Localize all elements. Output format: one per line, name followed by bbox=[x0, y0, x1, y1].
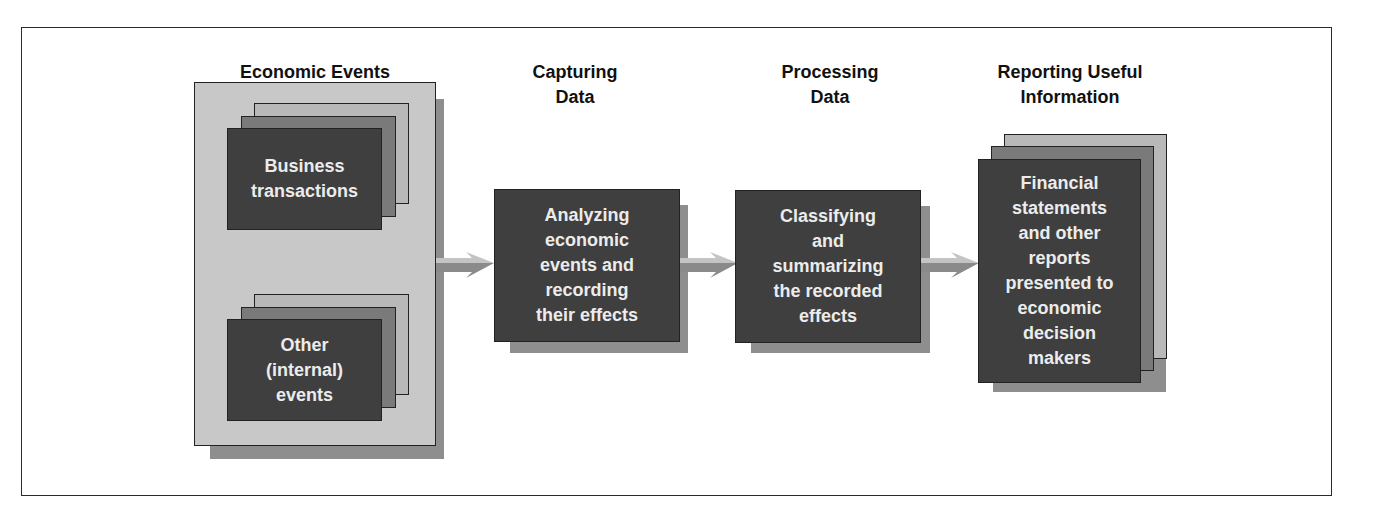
arrow-right-icon bbox=[436, 252, 496, 282]
heading-capturing-data: Capturing Data bbox=[490, 60, 660, 110]
heading-processing-data: Processing Data bbox=[730, 60, 930, 110]
business-transactions-label: Business transactions bbox=[251, 154, 358, 204]
processing-data-label: Classifying and summarizing the recorded… bbox=[772, 204, 883, 329]
heading-reporting-useful-information: Reporting Useful Information bbox=[960, 60, 1180, 110]
reporting-useful-information-label: Financial statements and other reports p… bbox=[1005, 171, 1113, 371]
arrow-right-icon bbox=[680, 252, 740, 282]
reporting-useful-information-box: Financial statements and other reports p… bbox=[978, 159, 1141, 383]
business-transactions-card: Business transactions bbox=[227, 128, 382, 230]
processing-data-box: Classifying and summarizing the recorded… bbox=[735, 190, 921, 343]
capturing-data-box: Analyzing economic events and recording … bbox=[494, 189, 680, 342]
other-internal-events-card: Other (internal) events bbox=[227, 319, 382, 421]
arrow-right-icon bbox=[921, 252, 981, 282]
other-internal-events-label: Other (internal) events bbox=[266, 333, 343, 408]
capturing-data-label: Analyzing economic events and recording … bbox=[536, 203, 638, 328]
